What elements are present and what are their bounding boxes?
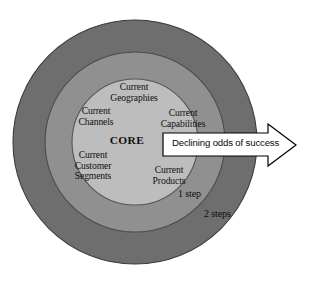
- concentric-rings-diagram: [0, 0, 309, 284]
